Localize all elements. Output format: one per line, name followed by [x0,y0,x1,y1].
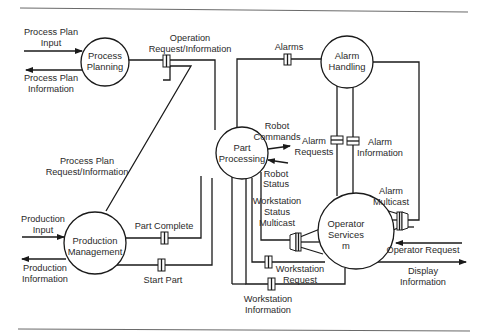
svg-text:Operator Request: Operator Request [386,245,459,255]
ws-multicast-fan-3 [300,247,323,254]
top-rule [20,8,468,12]
svg-text:Alarm: Alarm [335,50,360,61]
svg-text:Workstation: Workstation [244,294,292,304]
label-process-plan-request-information: Process Plan Request/Information [46,156,129,177]
svg-text:Input: Input [41,38,62,48]
operation-connector-hook [163,66,170,80]
alarm-information-connector [347,137,359,145]
label-start-part: Start Part [144,275,183,285]
workstation-status-multicast-connector [290,233,301,251]
svg-text:Operation: Operation [170,33,210,43]
operation-connector [163,55,170,67]
label-operator-request: Operator Request [386,245,459,255]
label-alarm-information: Alarm Information [357,137,403,158]
svg-text:Workstation: Workstation [253,196,301,206]
label-operation-request-information: Operation Request/Information [149,33,232,54]
svg-text:Services: Services [328,229,364,240]
alarms-line [237,59,321,128]
svg-text:Production: Production [23,263,67,273]
svg-text:Alarm: Alarm [368,137,392,147]
svg-text:Process Plan: Process Plan [24,73,78,83]
svg-text:Management: Management [68,246,123,257]
operation-request-line [129,60,215,130]
workstation-request-connector [265,256,272,268]
svg-text:Request/Information: Request/Information [46,167,129,177]
process-planning-node: Process Planning [81,38,129,86]
svg-text:Robot: Robot [265,121,290,131]
part-complete-connector [161,232,168,244]
svg-text:Status: Status [263,179,289,189]
svg-text:Workstation: Workstation [276,264,324,274]
svg-text:Information: Information [357,148,403,158]
svg-text:Alarm: Alarm [302,136,326,146]
diagram-canvas: Process Planning Part Processing Alarm H… [0,0,484,334]
data-flow-diagram: Process Planning Part Processing Alarm H… [0,0,484,334]
svg-text:Information: Information [28,84,74,94]
svg-text:Multicast: Multicast [373,197,410,207]
robot-status-arrow [268,160,288,163]
svg-text:Processing: Processing [219,153,265,164]
svg-text:Part: Part [233,142,251,153]
label-workstation-information: Workstation Information [244,294,292,315]
svg-text:Multicast: Multicast [259,218,296,228]
svg-text:Request/Information: Request/Information [149,44,232,54]
svg-text:Process Plan: Process Plan [24,27,78,37]
svg-text:Process: Process [88,50,122,61]
label-alarms: Alarms [275,42,304,52]
svg-text:m: m [342,240,350,251]
svg-text:Information: Information [22,274,68,284]
alarm-requests-connector [331,136,343,144]
svg-text:Display: Display [408,266,439,276]
svg-text:Handling: Handling [328,61,365,72]
svg-text:Information: Information [245,305,291,315]
robot-commands-arrow [268,146,290,149]
workstation-information-connector [268,278,275,290]
label-alarm-multicast: Alarm Multicast [373,186,410,207]
label-workstation-status-multicast: Workstation Status Multicast [253,196,301,228]
label-process-plan-information: Process Plan Information [24,73,78,94]
alarm-handling-node: Alarm Handling [321,36,373,88]
svg-text:Part Complete: Part Complete [135,221,194,231]
alarms-connector [284,54,291,65]
svg-text:Start Part: Start Part [144,275,183,285]
bottom-rule [18,329,470,331]
svg-text:Planning: Planning [87,61,124,72]
svg-text:Production: Production [73,235,118,246]
process-plan-request-line [106,66,191,211]
label-display-information: Display Information [400,266,446,287]
svg-text:Production: Production [21,214,65,224]
label-production-information: Production Information [22,263,68,284]
label-production-input: Production Input [21,214,65,235]
svg-text:Alarm: Alarm [379,186,403,196]
production-management-node: Production Management [64,212,126,274]
svg-text:Alarms: Alarms [275,42,304,52]
label-process-plan-input: Process Plan Input [24,27,78,48]
alarm-multicast-connector [397,212,408,230]
svg-text:Robot: Robot [264,169,289,179]
svg-text:Status: Status [264,207,290,217]
label-workstation-request: Workstation Request [276,264,324,285]
svg-text:Operator: Operator [328,218,365,229]
start-part-connector [158,259,165,271]
svg-text:Request: Request [283,275,318,285]
label-part-complete: Part Complete [135,221,194,231]
svg-text:Commands: Commands [254,132,301,142]
ws-multicast-fan-1 [300,229,320,237]
svg-text:Input: Input [33,225,54,235]
svg-text:Requests: Requests [295,147,334,157]
label-robot-commands: Robot Commands [254,121,301,142]
label-robot-status: Robot Status [263,169,289,189]
svg-text:Information: Information [400,277,446,287]
svg-text:Process Plan: Process Plan [60,156,114,166]
